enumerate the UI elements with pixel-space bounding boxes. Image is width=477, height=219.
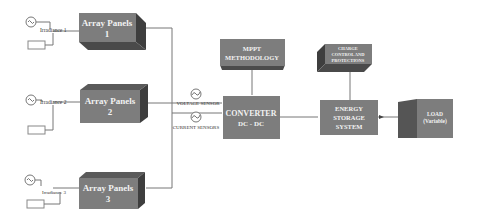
load-line1: LOAD <box>427 111 443 117</box>
signal-block <box>27 200 44 208</box>
charge-line1: CHARGE <box>338 46 358 51</box>
irradiance-3: Irradiance 3 <box>25 175 67 208</box>
current-sensor: CURRENT SENSORS <box>173 112 220 130</box>
converter-line1: CONVERTER <box>226 109 277 118</box>
charge-control-block[interactable]: CHARGE CONTROL AND PROTECTIONS <box>317 44 372 72</box>
voltage-sensor-label: VOLTAGE SENSOR <box>176 101 220 106</box>
mppt-line1: MPPT <box>243 45 262 52</box>
panel-number: 3 <box>106 194 111 204</box>
converter-line2: DC - DC <box>238 120 264 128</box>
energy-storage-block[interactable]: ENERGY STORAGE SYSTEM <box>320 100 378 135</box>
mppt-methodology-block[interactable]: MPPT METHODOLOGY <box>220 39 285 70</box>
system-block-diagram: Irradiance 1 Irradiance 2 Irradiance 3 A… <box>0 0 477 219</box>
current-sensor-label: CURRENT SENSORS <box>173 125 220 130</box>
irradiance-label: Irradiance 1 <box>40 27 67 33</box>
panel-title: Array Panels <box>85 96 136 106</box>
irradiance-label: Irradiance 3 <box>42 190 67 195</box>
arrow-icon <box>379 115 384 119</box>
array-panels-1[interactable]: Array Panels 1 <box>79 13 146 50</box>
load-block[interactable]: LOAD (Variable) <box>398 99 453 138</box>
irradiance-1: Irradiance 1 <box>26 17 67 49</box>
storage-line1: ENERGY <box>335 105 363 112</box>
irradiance-label: Irradiance 2 <box>40 99 67 105</box>
irradiance-2: Irradiance 2 <box>26 95 67 134</box>
storage-line2: STORAGE <box>333 114 365 121</box>
voltage-sensor: VOLTAGE SENSOR <box>176 89 220 106</box>
array-panels-3[interactable]: Array Panels 3 <box>79 172 145 209</box>
converter-dc-dc-block[interactable]: CONVERTER DC - DC <box>223 96 280 139</box>
panel-title: Array Panels <box>83 183 134 193</box>
signal-block <box>28 41 45 49</box>
panel-number: 2 <box>108 107 113 117</box>
mppt-line2: METHODOLOGY <box>225 54 279 61</box>
storage-line3: SYSTEM <box>336 123 363 130</box>
load-line2: (Variable) <box>423 118 447 125</box>
panel-title: Array Panels <box>82 18 133 28</box>
array-panels-2[interactable]: Array Panels 2 <box>80 84 148 123</box>
signal-block <box>28 126 45 134</box>
charge-line2: CONTROL AND <box>331 52 365 57</box>
panel-number: 1 <box>105 29 110 39</box>
charge-line3: PROTECTIONS <box>332 58 365 63</box>
